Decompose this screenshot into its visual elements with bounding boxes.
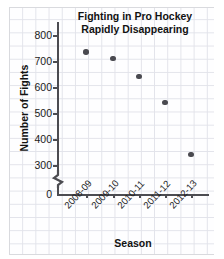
x-tick-2010-11 xyxy=(139,194,141,198)
chart-title-line-2: Rapidly Disappearing xyxy=(64,23,206,36)
data-point-2012-13 xyxy=(188,152,194,158)
y-tick-label-800-wrap: 800 xyxy=(22,30,52,40)
y-axis-title: Number of Fights xyxy=(18,48,30,168)
y-tick-600 xyxy=(53,87,59,89)
y-axis-line xyxy=(57,22,59,172)
x-tick-2008-09 xyxy=(86,194,88,198)
x-tick-2012-13 xyxy=(191,194,193,198)
y-axis-break-icon xyxy=(51,170,67,188)
y-tick-300 xyxy=(53,165,59,167)
y-tick-700 xyxy=(53,61,59,63)
y-tick-label-800: 800 xyxy=(24,30,52,40)
y-tick-500 xyxy=(53,113,59,115)
y-tick-400 xyxy=(53,139,59,141)
x-tick-2011-12 xyxy=(165,194,167,198)
y-tick-label-0: 0 xyxy=(24,189,52,199)
x-axis-title: Season xyxy=(57,237,209,249)
chart-title: Fighting in Pro Hockey Rapidly Disappear… xyxy=(64,10,206,35)
data-point-2011-12 xyxy=(162,100,168,106)
data-point-2010-11 xyxy=(136,74,142,80)
chart-title-line-1: Fighting in Pro Hockey xyxy=(64,10,206,23)
y-tick-800 xyxy=(53,35,59,37)
chart-screenshot: Fighting in Pro Hockey Rapidly Disappear… xyxy=(0,0,224,259)
data-point-2008-09 xyxy=(83,49,89,55)
x-tick-2009-10 xyxy=(113,194,115,198)
y-tick-label-0-wrap: 0 xyxy=(22,189,52,199)
data-point-2009-10 xyxy=(110,56,116,62)
scatter-plot: Fighting in Pro Hockey Rapidly Disappear… xyxy=(0,0,224,259)
